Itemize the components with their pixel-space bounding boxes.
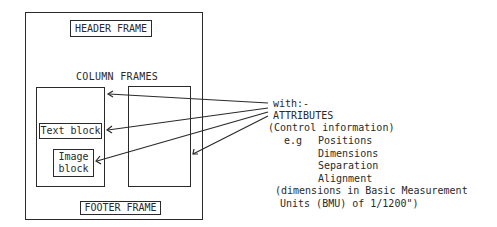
annotation-footnote-line2: Units (BMU) of 1/1200") xyxy=(280,198,418,210)
annotation-eg-label: e.g xyxy=(284,135,302,147)
example-alignment: Alignment xyxy=(318,173,372,185)
example-separation: Separation xyxy=(318,160,378,172)
annotation-line-with: with:- xyxy=(273,98,309,110)
example-positions: Positions xyxy=(318,135,372,147)
example-dimensions: Dimensions xyxy=(318,148,378,160)
annotation-line-control-info: (Control information) xyxy=(268,122,394,134)
annotation-footnote-line1: (dimensions in Basic Measurement xyxy=(275,185,468,197)
arrow-to-right-column xyxy=(193,116,268,154)
annotation-line-attributes: ATTRIBUTES xyxy=(273,110,333,122)
arrow-to-left-column xyxy=(109,94,268,103)
